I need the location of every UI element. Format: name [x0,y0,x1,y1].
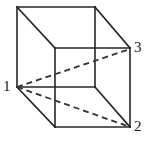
cube-solid-edges [17,7,130,127]
cube-diagram-svg [0,0,150,144]
cube-edge-connector-bottom-left [17,87,55,127]
vertex-label-1: 1 [3,79,11,94]
cube-edge-connector-top-right [95,7,130,48]
vertex-label-2: 2 [134,119,142,134]
cube-figure: 1 3 2 [0,0,150,144]
cube-dashed-diagonals [17,49,130,127]
vertex-label-3: 3 [134,40,142,55]
cube-diagonal-1-to-3 [17,49,130,87]
cube-edge-connector-top-left [17,7,55,48]
